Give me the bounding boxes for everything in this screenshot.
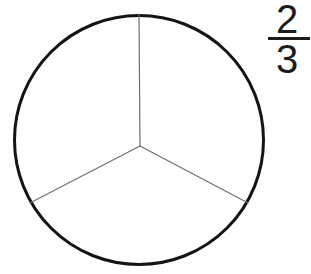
fraction-numerator: 2 <box>268 2 306 36</box>
fraction-circle-figure: 2 3 <box>0 0 311 274</box>
circle-diagram <box>0 0 311 274</box>
fraction-label: 2 3 <box>268 0 311 76</box>
fraction-denominator: 3 <box>268 42 306 76</box>
